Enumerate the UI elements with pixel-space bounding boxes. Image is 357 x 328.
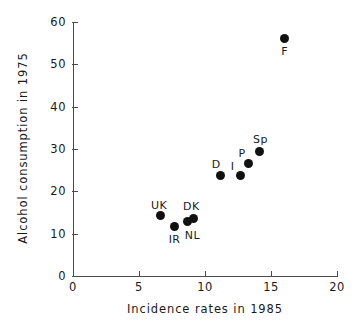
data-point-label-f: F	[281, 45, 288, 58]
y-tick-10	[72, 234, 78, 235]
x-tick-label-5: 5	[135, 280, 143, 294]
x-tick-label-10: 10	[197, 280, 213, 294]
x-tick-label-0: 0	[69, 280, 77, 294]
scatter-plot-figure: Alcohol consumption in 1975 010203040506…	[0, 0, 357, 328]
data-point-label-p: P	[239, 147, 246, 160]
data-point-label-sp: Sp	[253, 133, 268, 146]
data-point-sp[interactable]	[255, 147, 264, 156]
data-point-i[interactable]	[236, 171, 245, 180]
y-tick-label-10: 10	[50, 227, 66, 241]
data-point-label-dk: DK	[183, 200, 199, 213]
data-point-f[interactable]	[280, 34, 289, 43]
x-tick-label-20: 20	[329, 280, 345, 294]
data-point-label-ir: IR	[169, 233, 181, 246]
data-point-dk[interactable]	[189, 214, 198, 223]
x-tick-20	[337, 271, 338, 277]
data-point-label-d: D	[212, 158, 221, 171]
y-tick-label-40: 40	[50, 100, 66, 114]
y-tick-0	[72, 276, 78, 277]
plot-area: 0102030405060 05101520 UKIRNLDKDIPSpF	[73, 22, 337, 276]
y-tick-label-0: 0	[58, 269, 66, 283]
y-tick-label-30: 30	[50, 142, 66, 156]
y-axis-label: Alcohol consumption in 1975	[12, 18, 34, 278]
x-axis-label: Incidence rates in 1985	[73, 302, 337, 316]
data-point-label-uk: UK	[151, 199, 167, 212]
y-tick-20	[72, 191, 78, 192]
y-tick-50	[72, 64, 78, 65]
y-tick-60	[72, 22, 78, 23]
y-tick-40	[72, 107, 78, 108]
y-tick-30	[72, 149, 78, 150]
data-point-label-i: I	[231, 160, 235, 173]
x-tick-15	[271, 271, 272, 277]
data-point-label-nl: NL	[185, 229, 200, 242]
y-tick-label-50: 50	[50, 57, 66, 71]
x-tick-10	[205, 271, 206, 277]
data-point-d[interactable]	[216, 171, 225, 180]
x-tick-label-15: 15	[263, 280, 279, 294]
y-tick-label-60: 60	[50, 15, 66, 29]
data-point-p[interactable]	[244, 159, 253, 168]
y-tick-label-20: 20	[50, 184, 66, 198]
data-point-ir[interactable]	[170, 222, 179, 231]
x-tick-5	[139, 271, 140, 277]
data-point-uk[interactable]	[156, 211, 165, 220]
